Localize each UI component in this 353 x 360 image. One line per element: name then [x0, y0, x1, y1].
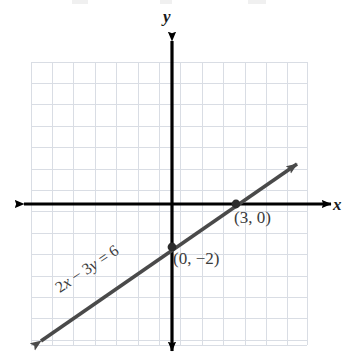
coordinate-plane-svg [0, 0, 353, 360]
axis-lines [24, 41, 331, 351]
x-axis-label: x [333, 196, 342, 213]
graph-figure: y x (3, 0) (0, −2) 2x − 3y = 6 [0, 0, 353, 360]
point-label-0-neg2: (0, −2) [173, 250, 219, 267]
y-axis-label: y [163, 8, 171, 25]
point-label-3-0: (3, 0) [234, 209, 271, 226]
